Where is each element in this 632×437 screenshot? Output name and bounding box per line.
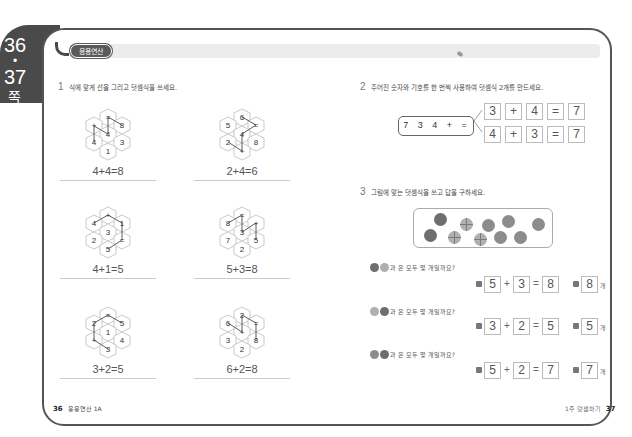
gray-ball-icon xyxy=(370,350,379,359)
hex-answer: 3+2=5 xyxy=(58,363,158,375)
svg-text:8: 8 xyxy=(120,121,125,130)
question-prompt: 과 은 모두 몇 개일까요? xyxy=(370,263,455,272)
svg-text:4: 4 xyxy=(120,336,125,345)
answer-tile[interactable]: 5 xyxy=(484,276,501,293)
hex-answer: 4+1=5 xyxy=(58,263,158,275)
svg-text:3: 3 xyxy=(226,336,231,345)
footer-left: 36응용연산 1A xyxy=(53,404,102,413)
answer-tile[interactable]: 3 xyxy=(513,276,530,293)
svg-text:3: 3 xyxy=(106,345,111,354)
given-symbols-box: 7 3 4 + = xyxy=(398,116,474,136)
gray-ball-icon xyxy=(532,218,545,231)
answer-tile[interactable]: 5 xyxy=(581,318,598,335)
dark-ball-icon xyxy=(424,229,437,242)
dark-ball-icon xyxy=(434,213,447,226)
answer-tile[interactable]: = xyxy=(547,103,564,120)
question-number: 3 xyxy=(360,186,366,197)
gray-ball-icon xyxy=(502,215,515,228)
hex-answer: 6+2=8 xyxy=(192,363,292,375)
answer-underline xyxy=(60,278,156,279)
expression-marker-icon xyxy=(476,281,482,287)
expression-marker-icon xyxy=(476,367,482,373)
header-bar xyxy=(70,44,600,58)
footer-right: 1주 덧셈하기37 xyxy=(565,404,615,413)
answer-tile[interactable]: 5 xyxy=(484,362,501,379)
gray-ball-icon xyxy=(514,231,527,244)
hex-puzzle[interactable]: 26= +382 6+2=8 xyxy=(192,305,292,385)
svg-text:4: 4 xyxy=(92,219,97,228)
expression-marker-icon xyxy=(476,323,482,329)
basketball-icon xyxy=(370,307,379,316)
answer-tile[interactable]: 3 xyxy=(484,318,501,335)
dark-ball-icon xyxy=(380,307,389,316)
svg-text:2: 2 xyxy=(240,345,245,354)
question-number: 2 xyxy=(360,81,366,92)
answer-tile[interactable]: 4 xyxy=(484,126,501,143)
question-prompt: 과 은 모두 몇 개일까요? xyxy=(370,307,455,316)
answer-tile[interactable]: 7 xyxy=(568,126,585,143)
answer-underline xyxy=(60,180,156,181)
question-2-title: 2주어진 숫자와 기호를 한 번씩 사용하여 덧셈식 2개를 만드세요. xyxy=(360,81,543,92)
svg-text:1: 1 xyxy=(106,147,111,156)
question-number: 1 xyxy=(58,81,64,92)
gray-ball-icon xyxy=(482,219,495,232)
hexagon-cluster-icon: =8+ 3752 xyxy=(214,205,270,261)
answer-tile[interactable]: 8 xyxy=(581,276,598,293)
question-prompt: 과 은 모두 몇 개일까요? xyxy=(370,350,455,359)
dark-ball-icon xyxy=(370,263,379,272)
basketball-icon xyxy=(474,233,487,246)
svg-text:2: 2 xyxy=(240,245,245,254)
answer-tile[interactable]: 3 xyxy=(484,103,501,120)
answer-tile[interactable]: 7 xyxy=(542,362,559,379)
svg-text:8: 8 xyxy=(226,219,231,228)
svg-text:3: 3 xyxy=(106,228,111,237)
answer-tile[interactable]: 5 xyxy=(542,318,559,335)
section-badge: 응용연산 xyxy=(70,44,112,58)
hexagon-cluster-icon: +41 32=5 xyxy=(80,205,136,261)
svg-text:3: 3 xyxy=(120,138,125,147)
answer-tile[interactable]: 2 xyxy=(513,318,530,335)
basketball-icon xyxy=(448,231,461,244)
basketball-icon xyxy=(460,218,473,231)
answer-marker-icon xyxy=(573,281,579,287)
svg-text:5: 5 xyxy=(226,121,231,130)
svg-text:7: 7 xyxy=(226,236,231,245)
answer-tile[interactable]: 3 xyxy=(526,126,543,143)
hex-answer: 4+4=8 xyxy=(58,165,158,177)
hex-puzzle[interactable]: =8+ 3752 5+3=8 xyxy=(192,205,292,285)
answer-tile[interactable]: 4 xyxy=(526,103,543,120)
answer-underline xyxy=(194,378,290,379)
answer-tile[interactable]: 8 xyxy=(542,276,559,293)
hex-puzzle[interactable]: +41 32=5 4+1=5 xyxy=(58,205,158,285)
svg-text:2: 2 xyxy=(92,236,97,245)
page-number-bottom: 37 xyxy=(4,67,26,87)
question-3-title: 3그림에 맞는 덧셈식을 쓰고 답을 구하세요. xyxy=(360,186,485,197)
hex-puzzle[interactable]: 65= 428+ 2+4=6 xyxy=(192,107,292,187)
footer-page-right: 37 xyxy=(606,405,616,413)
answer-underline xyxy=(194,278,290,279)
answer-tile[interactable]: + xyxy=(505,126,522,143)
answer-tile[interactable]: 7 xyxy=(568,103,585,120)
hex-answer: 5+3=8 xyxy=(192,263,292,275)
answer-underline xyxy=(60,378,156,379)
svg-text:=: = xyxy=(254,121,259,130)
answer-tile[interactable]: = xyxy=(547,126,564,143)
hex-puzzle[interactable]: =+8 4431 4+4=8 xyxy=(58,107,158,187)
hexagon-cluster-icon: 26= +382 xyxy=(214,305,270,361)
hexagon-cluster-icon: 65= 428+ xyxy=(214,107,270,163)
footer-page-left: 36 xyxy=(53,405,63,413)
svg-text:1: 1 xyxy=(106,328,111,337)
question-1-title: 1식에 맞게 선을 그리고 덧셈식을 쓰세요. xyxy=(58,81,177,92)
answer-underline xyxy=(194,180,290,181)
answer-tile[interactable]: 2 xyxy=(513,362,530,379)
answer-marker-icon xyxy=(573,367,579,373)
answer-marker-icon xyxy=(573,323,579,329)
hexagon-cluster-icon: =+8 4431 xyxy=(80,107,136,163)
answer-tile[interactable]: 7 xyxy=(581,362,598,379)
answer-tile[interactable]: + xyxy=(505,103,522,120)
dark-ball-icon xyxy=(380,350,389,359)
hex-puzzle[interactable]: =25 1+43 3+2=5 xyxy=(58,305,158,385)
hex-answer: 2+4=6 xyxy=(192,165,292,177)
svg-text:5: 5 xyxy=(106,245,111,254)
hexagon-cluster-icon: =25 1+43 xyxy=(80,305,136,361)
